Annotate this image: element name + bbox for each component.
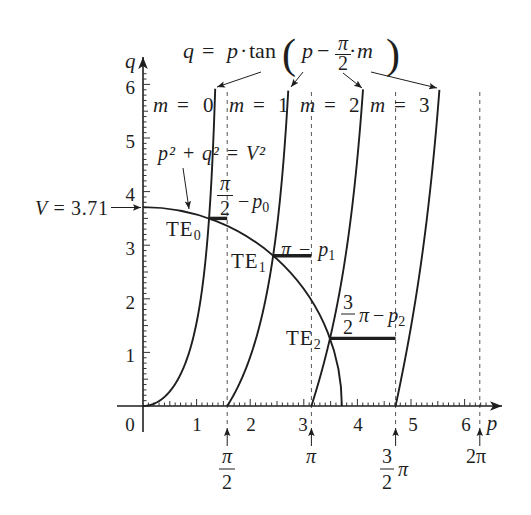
te1-offset-text: π−p1 — [281, 238, 335, 263]
formula-frac-num: π — [338, 32, 349, 54]
marker-three-half-pi-den: 2 — [382, 471, 392, 493]
label-m2: m=2 — [0, 93, 386, 117]
q-tick-4: 4 — [126, 184, 136, 205]
te2-label: TE2 — [286, 326, 322, 352]
formula-q: q — [183, 38, 194, 63]
formula-p-inner: p — [300, 38, 313, 63]
formula-dot: · — [240, 38, 247, 63]
q-axis-label: q — [125, 49, 136, 73]
formula-p: p — [225, 38, 238, 63]
arrow-to-m2 — [343, 73, 362, 88]
te1-offset-label: π−p1 — [281, 238, 335, 263]
circle-label-arrow — [183, 168, 189, 209]
formula-m: m — [357, 38, 373, 63]
marker-two-pi: 2π — [466, 445, 486, 467]
formula-rparen: ) — [386, 31, 400, 78]
te2-offset-den: 2 — [343, 316, 353, 338]
p-tick-6: 6 — [461, 414, 471, 435]
te0-offset-num: π — [220, 172, 231, 194]
p-tick-2: 2 — [246, 414, 256, 435]
marker-half-pi-num: π — [222, 445, 233, 467]
formula-tan: tan — [249, 38, 276, 63]
vertical-guides — [227, 92, 480, 424]
te2-offset-num: 3 — [343, 291, 353, 313]
te0-label: TE0 — [166, 217, 202, 243]
arrow-to-m3 — [371, 72, 437, 88]
q-tick-6: 6 — [126, 77, 136, 98]
te2-offset-label: 3 2 π−p2 — [341, 291, 405, 338]
formula-arrows — [217, 72, 437, 88]
q-axis-tick-labels: 1 2 3 4 5 6 — [126, 77, 136, 366]
p-tick-4: 4 — [353, 414, 363, 435]
te0-offset-den: 2 — [220, 197, 230, 219]
p-tick-0: 0 — [125, 414, 135, 435]
q-tick-1: 1 — [126, 345, 136, 366]
marker-half-pi-den: 2 — [222, 471, 232, 493]
q-axis-ticks — [143, 74, 150, 401]
p-axis-tick-labels: 0 1 2 3 4 5 6 — [125, 414, 471, 435]
figure: q = p · tan ( p − π 2 · m ) m=0 m=1 m=2 … — [0, 0, 531, 515]
te0-offset-label: π 2 −p0 — [217, 172, 269, 219]
q-tick-2: 2 — [126, 292, 136, 313]
p-tick-3: 3 — [298, 414, 308, 435]
formula-eq: = — [202, 38, 214, 63]
te1-label: TE1 — [231, 249, 267, 275]
curve-m3 — [396, 90, 440, 406]
formula: q = p · tan ( p − π 2 · m ) — [183, 31, 400, 78]
q-tick-5: 5 — [126, 131, 136, 152]
formula-lparen: ( — [282, 31, 296, 78]
p-axis-label: p — [485, 411, 498, 435]
v-label: V = 3.71 — [35, 197, 108, 219]
formula-dot2: · — [349, 38, 356, 63]
p-tick-1: 1 — [192, 414, 202, 435]
curve-m0 — [143, 89, 215, 406]
p-tick-5: 5 — [408, 414, 418, 435]
marker-three-half-pi-num: 3 — [382, 445, 392, 467]
pi-markers: π 2 π 3 2 π 2π — [219, 428, 486, 493]
marker-three-half-pi-suffix: π — [398, 458, 409, 480]
formula-frac-den: 2 — [338, 52, 348, 74]
curve-labels: m=0 m=1 m=2 m=3 — [0, 93, 456, 117]
te2-offset-rest: π−p2 — [359, 304, 405, 329]
marker-pi: π — [306, 445, 317, 467]
q-tick-3: 3 — [126, 238, 136, 259]
formula-minus: − — [317, 38, 329, 63]
te0-offset-rest: −p0 — [238, 190, 269, 215]
p-axis-ticks — [148, 399, 486, 406]
circle-equation-label: p² + q² = V² — [156, 142, 266, 165]
arrow-to-m0 — [217, 72, 261, 87]
